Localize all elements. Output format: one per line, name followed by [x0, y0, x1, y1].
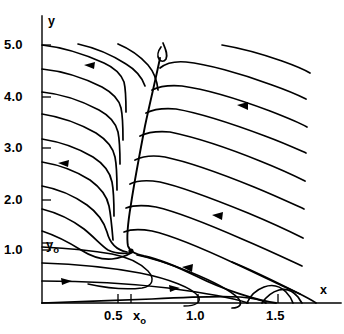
upper-trajectory-family: [42, 43, 310, 294]
trajectory-4: [42, 114, 117, 190]
trajectory-2: [42, 69, 123, 140]
y-tick-label-4: 4.0: [4, 89, 23, 104]
y-tick-label-1: 1.0: [4, 242, 23, 257]
trajectory-r6: [130, 181, 303, 238]
lower-trajectory-family: [42, 247, 316, 308]
arrow-head-6: [61, 278, 72, 285]
trajectory-6: [42, 162, 113, 240]
phase-portrait-figure: 5.0 4.0 3.0 2.0 1.0 0.5 1.0 1.5 xo yo y …: [0, 0, 344, 334]
x-tick-label-1-5: 1.5: [266, 308, 285, 323]
arrow-head-3: [237, 102, 248, 110]
y-tick-label-3: 3.0: [4, 140, 23, 155]
arrow-head-7: [169, 285, 180, 292]
trajectory-lower-loop-2: [42, 297, 266, 303]
y-ticks-group: [42, 45, 51, 250]
y-tick-label-2: 2.0: [4, 192, 23, 207]
trajectory-3: [42, 92, 120, 164]
trajectory-r1: [160, 62, 306, 99]
arrow-head-4: [212, 212, 223, 220]
trajectory-5: [42, 139, 114, 216]
x-axis-label: x: [320, 283, 327, 297]
axes-group: [42, 16, 341, 303]
trajectory-r2: [152, 86, 307, 127]
trajectory-top-right: [222, 45, 310, 73]
x0-label: xo: [133, 308, 146, 326]
saddle-point-marker: [128, 248, 133, 253]
y-tick-label-5: 5.0: [4, 37, 23, 52]
arrow-head-1: [84, 62, 95, 69]
y-axis-label: y: [48, 14, 55, 28]
x-tick-label-0-5: 0.5: [104, 308, 123, 323]
x-tick-label-1-0: 1.0: [186, 308, 205, 323]
plot-canvas: [0, 0, 344, 334]
y0-label: yo: [46, 237, 59, 255]
